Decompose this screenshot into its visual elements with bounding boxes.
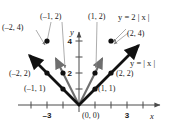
x-tick-label-neg3: –3 <box>43 111 52 120</box>
point-label-pos1-2: (1, 2) <box>88 12 106 21</box>
curve-label-2-abs-x: y = 2 | x | <box>118 12 150 22</box>
point-pos1-2 <box>92 70 97 75</box>
curve-2abs-left-branch <box>56 59 79 105</box>
point-label-neg1-1: (–1, 1) <box>24 84 46 93</box>
point-pos2-4 <box>108 38 113 43</box>
point-pos1-1 <box>92 86 97 91</box>
curve-abs-left-branch <box>30 56 79 105</box>
y-axis-label: y <box>69 27 74 37</box>
point-neg1-1 <box>60 86 65 91</box>
point-label-neg2-2: (–2, 2) <box>9 69 31 78</box>
y-tick-label-2: 2 <box>68 69 73 78</box>
axes <box>18 32 160 112</box>
curve-label-abs-x: y = | x | <box>130 58 155 68</box>
point-neg2-4 <box>44 38 49 43</box>
leader-lines <box>36 22 128 68</box>
curve-2abs-right-branch <box>79 59 102 105</box>
point-label-pos2-4: (2, 4) <box>127 29 145 38</box>
leader-line-m1-2b <box>62 22 65 68</box>
point-label-neg1-2: (–1, 2) <box>40 12 62 21</box>
absolute-value-graph-figure: –3 3 2 4 x y (–2, 4) (–1, 2) (1, 2) (2, … <box>0 0 173 130</box>
point-label-pos1-1: (1, 1) <box>98 84 116 93</box>
x-tick-label-3: 3 <box>125 111 130 120</box>
graph-canvas: –3 3 2 4 x y (–2, 4) (–1, 2) (1, 2) (2, … <box>0 0 173 130</box>
y-tick-label-4: 4 <box>68 37 73 46</box>
point-label-pos2-2: (2, 2) <box>116 69 134 78</box>
leader-line-m2-4 <box>36 30 45 45</box>
origin-label: (0, 0) <box>82 111 100 120</box>
point-neg1-2 <box>60 70 65 75</box>
point-pos2-2 <box>108 70 113 75</box>
leader-line-p1-2 <box>96 22 97 68</box>
point-neg2-2 <box>44 70 49 75</box>
point-label-neg2-4: (–2, 4) <box>2 23 24 32</box>
x-axis-label: x <box>149 111 154 121</box>
